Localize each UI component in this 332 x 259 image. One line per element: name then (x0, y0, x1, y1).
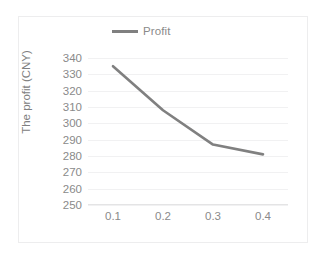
chart-legend: Profit (112, 22, 170, 40)
y-axis-tick-labels: 340330320310300290280270260250 (52, 50, 82, 213)
x-axis-tick-label: 0.3 (193, 210, 233, 222)
profit-line-chart: Profit The profit (CNY) 3403303203103002… (0, 0, 332, 259)
y-axis-tick-label: 340 (52, 52, 82, 64)
y-axis-tick-label: 290 (52, 134, 82, 146)
x-axis-tick-label: 0.1 (93, 210, 133, 222)
legend-line-swatch-profit (112, 30, 138, 33)
legend-label-profit: Profit (143, 25, 170, 37)
x-axis-tick-label: 0.4 (243, 210, 283, 222)
y-axis-title: The profit (CNY) (20, 37, 32, 147)
y-axis-tick-label: 270 (52, 166, 82, 178)
y-axis-tick-label: 280 (52, 150, 82, 162)
series-profit-line (88, 58, 288, 205)
y-axis-tick-label: 330 (52, 68, 82, 80)
y-axis-tick-label: 260 (52, 183, 82, 195)
y-axis-tick-label: 320 (52, 85, 82, 97)
x-axis-tick-label: 0.2 (143, 210, 183, 222)
gridline (88, 205, 288, 206)
y-axis-tick-label: 310 (52, 101, 82, 113)
y-axis-tick-label: 300 (52, 117, 82, 129)
plot-area (88, 58, 288, 205)
y-axis-tick-label: 250 (52, 199, 82, 211)
x-axis-tick-labels: 0.10.20.30.4 (88, 210, 288, 226)
